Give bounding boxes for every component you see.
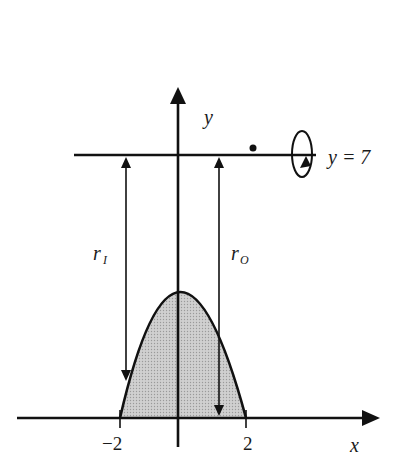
inner-radius-arrow — [121, 157, 131, 381]
svg-text:O: O — [240, 253, 249, 267]
svg-text:r: r — [231, 242, 239, 264]
washer-method-diagram: y x −2 2 y = 7 r I r O — [0, 0, 404, 463]
outer-radius-label: r O — [231, 242, 249, 267]
dot-marker — [250, 145, 257, 152]
y-axis-arrow-icon — [170, 87, 186, 104]
axis-of-revolution-label: y = 7 — [326, 146, 371, 169]
tick-label-neg2: −2 — [102, 433, 122, 454]
x-axis-label: x — [349, 434, 359, 456]
y-axis-label: y — [202, 106, 213, 129]
svg-text:r: r — [93, 242, 101, 264]
tick-label-2: 2 — [243, 433, 253, 454]
svg-text:I: I — [102, 253, 108, 267]
inner-radius-label: r I — [93, 242, 108, 267]
x-axis-arrow-icon — [362, 410, 380, 426]
